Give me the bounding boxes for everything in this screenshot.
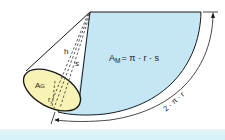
height-label: h	[64, 47, 68, 56]
cone-surface-diagram: AM= π · r · s AG h s r 2 · π · r	[0, 0, 225, 140]
bottom-band	[0, 129, 225, 140]
slant-height-label: s	[75, 59, 79, 68]
base-area-label: AG	[35, 81, 45, 90]
arrowhead-top-icon	[211, 12, 215, 18]
arrowhead-bottom-icon	[54, 118, 59, 122]
dimension-tick-bottom	[51, 112, 55, 124]
